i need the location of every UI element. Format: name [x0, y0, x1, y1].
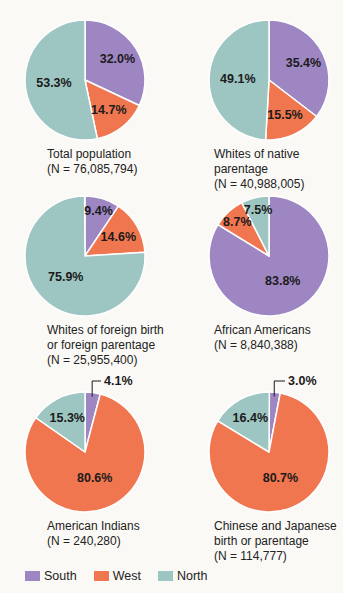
pie-chart-american-indians: 4.1%80.6%15.3% American Indians(N = 240,…: [0, 370, 171, 549]
slice-label-south: 83.8%: [265, 274, 300, 288]
legend: South West North: [25, 569, 208, 583]
legend-label-south: South: [44, 569, 77, 583]
slice-label-west: 80.6%: [77, 471, 112, 485]
pie-total-population: 32.0%14.7%53.3%: [0, 0, 171, 144]
chart-caption: Whites of foreign birthor foreign parent…: [0, 323, 171, 368]
pie-chinese-japanese: 3.0%80.7%16.4%: [172, 370, 343, 516]
caption-line: birth or parentage: [214, 534, 343, 549]
slice-label-south: 4.1%: [104, 374, 133, 388]
slice-label-north: 53.3%: [36, 76, 71, 90]
slice-label-west: 80.7%: [263, 471, 298, 485]
slice-label-south: 3.0%: [288, 374, 317, 388]
figure-panel: 32.0%14.7%53.3% Total population(N = 76,…: [0, 0, 343, 593]
legend-item-west: West: [94, 569, 141, 583]
caption-line: (N = 8,840,388): [214, 338, 343, 353]
slice-label-south: 35.4%: [286, 56, 321, 70]
caption-line: Whites of native parentage: [214, 147, 343, 177]
pie-chart-african-americans: 83.8%8.7%7.5% African Americans(N = 8,84…: [172, 174, 343, 353]
south-swatch-icon: [25, 571, 40, 581]
slice-label-west: 15.5%: [267, 108, 302, 122]
caption-line: (N = 240,280): [47, 534, 171, 549]
pie-american-indians: 4.1%80.6%15.3%: [0, 370, 171, 516]
slice-label-north: 7.5%: [244, 203, 273, 217]
slice-label-north: 16.4%: [233, 411, 268, 425]
slice-label-south: 9.4%: [84, 204, 113, 218]
caption-line: or foreign parentage: [47, 338, 171, 353]
pie-chart-total-population: 32.0%14.7%53.3% Total population(N = 76,…: [0, 0, 171, 177]
pie-chart-chinese-japanese: 3.0%80.7%16.4% Chinese and Japanesebirth…: [172, 370, 343, 564]
caption-line: (N = 25,955,400): [47, 353, 171, 368]
caption-line: Chinese and Japanese: [214, 519, 343, 534]
caption-line: American Indians: [47, 519, 171, 534]
slice-label-west: 14.7%: [91, 103, 126, 117]
chart-caption: American Indians(N = 240,280): [0, 519, 171, 549]
slice-label-north: 49.1%: [220, 72, 255, 86]
pie-chart-whites-foreign-birth: 9.4%14.6%75.9% Whites of foreign birthor…: [0, 174, 171, 368]
west-swatch-icon: [94, 571, 109, 581]
caption-line: African Americans: [214, 323, 343, 338]
slice-label-west: 14.6%: [101, 230, 136, 244]
north-swatch-icon: [158, 571, 173, 581]
pie-whites-native-parentage: 35.4%15.5%49.1%: [172, 0, 343, 144]
legend-item-south: South: [25, 569, 77, 583]
chart-caption: Total population(N = 76,085,794): [0, 147, 171, 177]
slice-label-north: 75.9%: [48, 270, 83, 284]
pie-whites-foreign-birth: 9.4%14.6%75.9%: [0, 174, 171, 320]
slice-label-north: 15.3%: [50, 411, 85, 425]
legend-label-north: North: [177, 569, 208, 583]
slice-label-south: 32.0%: [100, 52, 135, 66]
caption-line: (N = 114,777): [214, 549, 343, 564]
pie-chart-whites-native-parentage: 35.4%15.5%49.1% Whites of native parenta…: [172, 0, 343, 192]
legend-label-west: West: [113, 569, 141, 583]
caption-line: Whites of foreign birth: [47, 323, 171, 338]
caption-line: Total population: [47, 147, 171, 162]
chart-caption: Chinese and Japanesebirth or parentage(N…: [172, 519, 343, 564]
pie-african-americans: 83.8%8.7%7.5%: [172, 174, 343, 320]
legend-item-north: North: [158, 569, 208, 583]
chart-caption: African Americans(N = 8,840,388): [172, 323, 343, 353]
